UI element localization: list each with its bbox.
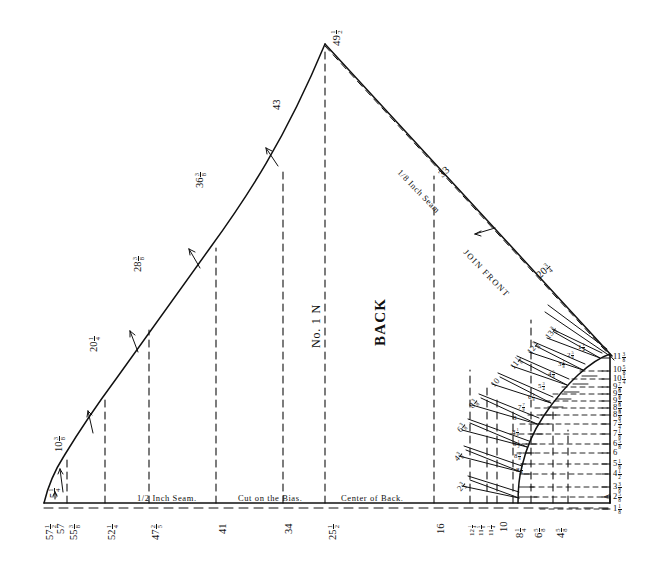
step-label-8-3-8: 838 (514, 452, 521, 461)
corner-marker-a: A (603, 493, 612, 500)
piece-number-label: No. 1 N (310, 304, 322, 348)
axis-label-8-1-4: 814 (514, 528, 527, 538)
curve-label-5-1-4: 514 (48, 488, 61, 498)
step-label-6-1-8: 618 (528, 393, 535, 402)
pattern-draft-canvas: 4912 514 1038 2014 2838 3638 43 33 2034 … (0, 0, 652, 574)
scale-label-1-1-8: 118 (613, 504, 622, 515)
bottom-seam-note: 1/2 Inch Seam. (137, 494, 197, 503)
curve-label-43: 43 (272, 99, 283, 110)
step-label-7-7-8: 778 (518, 403, 525, 412)
axis-label-6-5-8: 658 (533, 528, 546, 538)
bias-note: Cut on the Bias. (238, 494, 302, 503)
step-label-8-1-2: 812 (513, 440, 520, 449)
axis-label-52-1-4: 5214 (106, 524, 119, 540)
scale-label-2-5-8: 258 (613, 492, 622, 503)
axis-label-47-2-5: 4725 (150, 524, 163, 540)
axis-label-41: 41 (218, 523, 229, 534)
step-label-5-3-4: 534 (538, 382, 545, 391)
center-back-note: Center of Back. (341, 494, 404, 503)
seam-line-diagonal (325, 46, 614, 360)
step-label-1-1-4: 114 (578, 343, 585, 352)
axis-label-57: 57 (56, 523, 67, 534)
apex-measurement: 4912 (330, 30, 344, 46)
step-label-8-1-8: 818 (516, 466, 523, 475)
curve-label-20-1-4: 2014 (88, 336, 101, 352)
step-label-4-5-8: 458 (548, 370, 555, 379)
curve-label-10-3-8: 1038 (53, 436, 66, 452)
horizontal-grading-lines (510, 371, 608, 509)
curve-label-28-3-8: 2838 (132, 256, 145, 272)
right-long-edge (325, 44, 612, 356)
scale-label-4-1-2: 412 (613, 469, 622, 480)
right-scale-ticks (602, 358, 610, 509)
scale-label-6: 6 (613, 448, 617, 457)
axis-label-25-1-2: 2512 (327, 524, 340, 540)
axis-label-55-3-8: 5538 (68, 524, 81, 540)
scale-label-11-3-8: 1138 (613, 352, 626, 363)
step-label-8: 8 (513, 415, 517, 422)
axis-label-10: 10 (499, 521, 510, 532)
axis-label-11-1-4: 1114 (487, 525, 496, 536)
axis-label-11-5-8: 1158 (477, 525, 486, 536)
step-label-2-5-8: 258 (567, 351, 574, 360)
step-label-8-1-8-b: 818 (512, 428, 519, 437)
curve-label-36-3-8: 3638 (194, 172, 207, 188)
piece-label-back: BACK (373, 298, 388, 346)
axis-label-16: 16 (436, 523, 447, 534)
axis-label-34: 34 (284, 523, 295, 534)
axis-label-4-5-8: 458 (555, 528, 568, 538)
draft-linework (0, 0, 652, 574)
step-label-3-1-8: 318 (558, 360, 565, 369)
